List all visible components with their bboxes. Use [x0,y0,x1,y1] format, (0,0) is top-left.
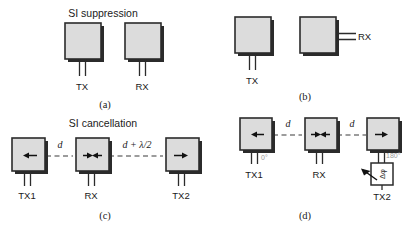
antenna-tx1-d: 0° TX1 [240,118,275,180]
phase-shifter-symbol: Δφ [378,169,387,179]
antenna-tx1-c: TX1 [12,138,48,201]
antenna-label: TX [246,75,259,86]
phase-shifter: Δφ [361,163,393,190]
panel-caption-b: (b) [299,91,312,103]
panel-a-title: SI suppression [68,7,138,19]
antenna-tx2-d: 180° Δφ TX2 [361,118,402,202]
antenna-tx-b: TX [235,17,274,86]
patch-body [125,23,161,59]
antenna-rx-c: RX [76,138,112,201]
patch-body [65,23,101,59]
antenna-tx2-c: TX2 [166,138,202,201]
patch-body [300,17,336,53]
antenna-rx-d: RX [305,118,340,180]
distance-label-2: d + λ/2 [123,139,152,150]
antenna-label: RX [312,169,326,180]
antenna-configuration-figure: SI suppression TX RX (a) TX [0,0,411,231]
panel-c-title: SI cancellation [69,117,137,129]
antenna-rx-b: RX [300,17,372,56]
antenna-label: RX [135,81,149,92]
panel-c: SI cancellation d d + λ/2 TX1 RX [12,117,202,222]
patch-body [76,138,109,171]
antenna-rx-a: RX [125,23,164,92]
patch-body [235,17,271,53]
antenna-label: RX [358,31,372,42]
panel-a: SI suppression TX RX (a) [65,7,164,111]
patch-body [305,118,337,150]
antenna-label: TX2 [373,191,390,202]
antenna-tx-a: TX [65,23,104,92]
antenna-label: RX [84,190,98,201]
panel-caption-c: (c) [99,210,111,222]
phase-label-tx2: 180° [386,152,401,159]
panel-d: d d 0° TX1 RX [240,118,402,222]
antenna-label: TX2 [172,190,189,201]
phase-label-tx1: 0° [261,154,268,161]
panel-caption-d: (d) [299,210,312,222]
antenna-label: TX1 [245,169,262,180]
panel-b: TX RX (b) [235,17,372,103]
distance-label-2: d [350,118,356,129]
distance-label-1: d [58,139,64,150]
distance-label-1: d [286,118,292,129]
antenna-label: TX [76,81,89,92]
antenna-label: TX1 [18,190,35,201]
panel-caption-a: (a) [99,99,111,111]
